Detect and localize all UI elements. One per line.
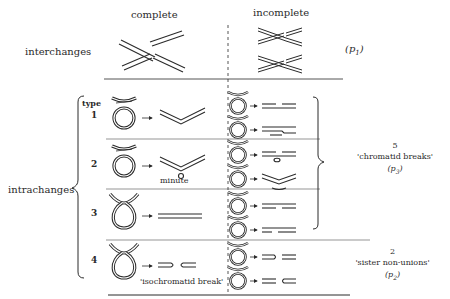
diagram-graphics [0,0,450,299]
